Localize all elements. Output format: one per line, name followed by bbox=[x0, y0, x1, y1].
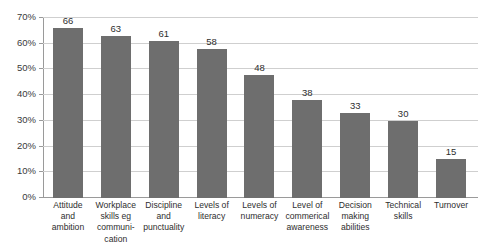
bar[interactable] bbox=[244, 75, 274, 198]
bar-slot: 30 bbox=[379, 17, 427, 198]
bar-slot: 15 bbox=[427, 17, 475, 198]
bar-value-label: 63 bbox=[111, 23, 122, 34]
bar-value-label: 33 bbox=[350, 100, 361, 111]
x-axis-category-label-line: and bbox=[44, 211, 92, 222]
bar-value-label: 15 bbox=[446, 146, 457, 157]
y-axis-tick bbox=[39, 171, 43, 172]
bar-value-label: 48 bbox=[254, 62, 265, 73]
bar[interactable] bbox=[197, 49, 227, 198]
x-axis-category-label-line: Decision bbox=[331, 200, 379, 211]
x-axis-category-label-line: Attitude bbox=[44, 200, 92, 211]
y-axis-tick-label: 70% bbox=[0, 11, 36, 22]
y-axis-tick bbox=[39, 68, 43, 69]
bar-slot: 48 bbox=[236, 17, 284, 198]
x-axis-category-label: Disciplineandpunctuality bbox=[140, 200, 188, 234]
x-axis-category-label-line: skills bbox=[379, 211, 427, 222]
x-axis-category-label-line: Discipline bbox=[140, 200, 188, 211]
x-axis-category-label-line: abilities bbox=[331, 222, 379, 233]
x-axis-category-label-line: Level of bbox=[283, 200, 331, 211]
y-axis-tick-label: 20% bbox=[0, 140, 36, 151]
bar[interactable] bbox=[53, 28, 83, 198]
y-axis-tick bbox=[39, 120, 43, 121]
bar-chart: 70%60%50%40%30%20%10%0% 6663615848383330… bbox=[0, 0, 479, 252]
x-axis-category-label: Technicalskills bbox=[379, 200, 427, 222]
x-axis-category-label-line: skills eg bbox=[92, 211, 140, 222]
y-axis-tick bbox=[39, 43, 43, 44]
bar-slot: 38 bbox=[283, 17, 331, 198]
x-axis-category-label: Decisionmakingabilities bbox=[331, 200, 379, 234]
x-axis-category-label-line: Levels of bbox=[188, 200, 236, 211]
y-axis-tick-label: 50% bbox=[0, 62, 36, 73]
bar-slot: 58 bbox=[188, 17, 236, 198]
x-axis-category-label-line: literacy bbox=[188, 211, 236, 222]
x-axis-category-label-line: Workplace bbox=[92, 200, 140, 211]
bar-slot: 33 bbox=[331, 17, 379, 198]
x-axis-category-label: Levels ofliteracy bbox=[188, 200, 236, 222]
x-axis-category-label-line: awareness bbox=[283, 222, 331, 233]
y-axis-tick bbox=[39, 17, 43, 18]
y-axis-tick-label: 40% bbox=[0, 88, 36, 99]
bars-group: 666361584838333015 bbox=[44, 17, 475, 198]
bar-value-label: 58 bbox=[206, 36, 217, 47]
bar[interactable] bbox=[340, 113, 370, 198]
x-axis-category-label-line: Technical bbox=[379, 200, 427, 211]
bar-value-label: 66 bbox=[63, 15, 74, 26]
bar-value-label: 38 bbox=[302, 87, 313, 98]
bar[interactable] bbox=[436, 159, 466, 198]
y-axis-tick bbox=[39, 146, 43, 147]
x-axis-category-label: Levels ofnumeracy bbox=[236, 200, 284, 222]
bar-value-label: 61 bbox=[158, 28, 169, 39]
x-axis-category-label: Level ofcommericalawareness bbox=[283, 200, 331, 234]
y-axis-tick bbox=[39, 94, 43, 95]
x-axis-category-label-line: cation bbox=[92, 234, 140, 245]
x-axis-category-label-line: punctuality bbox=[140, 222, 188, 233]
y-axis-tick-label: 30% bbox=[0, 114, 36, 125]
bar[interactable] bbox=[292, 100, 322, 198]
x-axis-category-label-line: ambition bbox=[44, 222, 92, 233]
bar[interactable] bbox=[149, 41, 179, 198]
x-axis-category-label-line: and bbox=[140, 211, 188, 222]
x-axis-category-label-line: Levels of bbox=[236, 200, 284, 211]
bar-slot: 66 bbox=[44, 17, 92, 198]
y-axis-tick bbox=[39, 197, 43, 198]
bar-slot: 61 bbox=[140, 17, 188, 198]
x-axis-category-label-line: communi- bbox=[92, 222, 140, 233]
bar[interactable] bbox=[388, 121, 418, 198]
y-axis-tick-label: 0% bbox=[0, 191, 36, 202]
x-axis-category-label: Turnover bbox=[427, 200, 475, 211]
y-axis-tick-label: 10% bbox=[0, 165, 36, 176]
bar[interactable] bbox=[101, 36, 131, 198]
x-axis-category-label: Workplaceskills egcommuni-cation bbox=[92, 200, 140, 245]
x-axis-category-label-line: numeracy bbox=[236, 211, 284, 222]
x-axis-category-label: Attitudeandambition bbox=[44, 200, 92, 234]
x-axis-category-label-line: Turnover bbox=[427, 200, 475, 211]
x-axis-category-label-line: making bbox=[331, 211, 379, 222]
y-axis-tick-label: 60% bbox=[0, 37, 36, 48]
bar-value-label: 30 bbox=[398, 108, 409, 119]
x-axis-category-label-line: commerical bbox=[283, 211, 331, 222]
bar-slot: 63 bbox=[92, 17, 140, 198]
x-axis-tick-labels: AttitudeandambitionWorkplaceskills egcom… bbox=[44, 200, 475, 252]
